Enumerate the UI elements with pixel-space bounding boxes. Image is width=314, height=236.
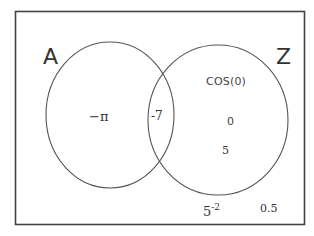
element-minus-pi: −π [89,110,108,123]
element-zero: 0 [227,116,234,127]
element-five: 5 [222,145,229,156]
element-half: 0.5 [260,203,278,214]
set-z-label: Z [276,46,291,68]
set-a-label: A [43,46,58,68]
element-five-power-minus-two: 5-2 [203,203,220,218]
element-minus-seven: -7 [151,110,163,122]
set-z-circle [148,45,288,195]
venn-diagram: A Z −π -7 COS(0) 0 5 5-2 0.5 [0,0,314,236]
element-cos-zero: COS(0) [206,76,246,87]
power-exponent: -2 [211,202,220,212]
